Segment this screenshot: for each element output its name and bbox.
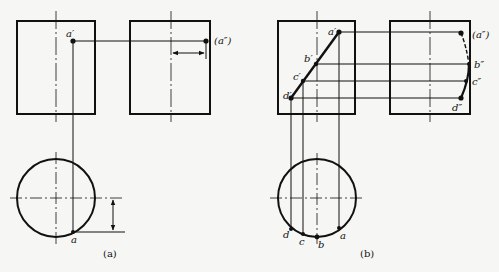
caption-b: (b) xyxy=(360,248,374,259)
label-d-prime: d′ xyxy=(283,90,292,101)
top-view-a xyxy=(10,152,125,244)
label-a-prime: a′ xyxy=(328,26,337,37)
label-a: a xyxy=(71,234,77,245)
point-a-double-prime xyxy=(458,30,463,35)
label-b: b xyxy=(318,239,324,250)
label-c: c xyxy=(299,236,305,247)
point-a-prime xyxy=(70,38,75,43)
label-a: a xyxy=(340,230,346,241)
orthographic-projection-figure: a′ (a″) a (a) xyxy=(0,0,499,272)
label-c-double-prime: c″ xyxy=(472,76,482,87)
label-d: d xyxy=(283,229,289,240)
point-c-prime xyxy=(301,79,305,83)
hidden-curve-side xyxy=(461,33,469,64)
caption-a: (a) xyxy=(103,248,117,259)
point-c-double-prime xyxy=(464,79,468,83)
label-c-prime: c′ xyxy=(293,71,302,82)
point-b-prime xyxy=(314,62,318,66)
subfigure-a: a′ (a″) a (a) xyxy=(10,11,232,259)
label-a-prime: a′ xyxy=(66,28,75,39)
label-a-double-prime: (a″) xyxy=(472,29,490,40)
label-b-prime: b′ xyxy=(304,53,313,64)
label-d-double-prime: d″ xyxy=(452,102,462,113)
label-a-double-prime: (a″) xyxy=(214,35,232,46)
point-a-prime xyxy=(336,29,341,34)
subfigure-b: a′ b′ c′ d′ (a″) b″ c″ d″ a b c d (b) xyxy=(270,11,490,259)
label-b-double-prime: b″ xyxy=(474,59,484,70)
point-d xyxy=(289,227,293,231)
front-view-a xyxy=(17,11,95,122)
front-view-b xyxy=(278,11,355,122)
point-b-double-prime xyxy=(467,62,471,66)
point-d-double-prime xyxy=(458,95,463,100)
side-view-a xyxy=(130,11,210,122)
